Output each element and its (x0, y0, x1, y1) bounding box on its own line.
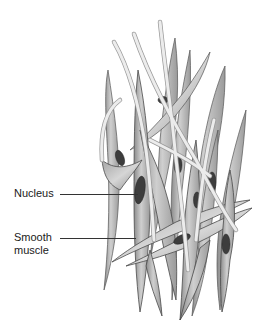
nucleus-leader-line (60, 194, 138, 195)
smooth-muscle-leader-line (60, 238, 136, 239)
smooth-muscle-label: Smooth muscle (14, 231, 52, 257)
smooth-muscle-label-line1: Smooth (14, 231, 52, 243)
smooth-muscle-label-line2: muscle (14, 244, 49, 256)
nucleus-label: Nucleus (14, 187, 54, 200)
smooth-muscle-illustration (0, 0, 270, 334)
